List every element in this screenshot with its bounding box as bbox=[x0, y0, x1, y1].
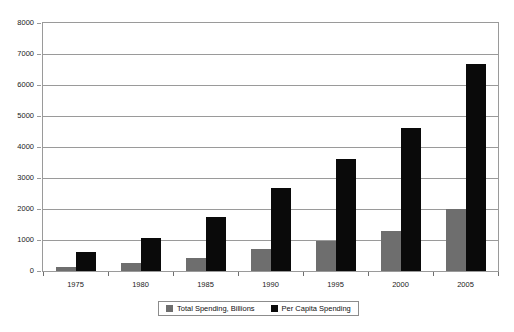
legend-label: Total Spending, Billions bbox=[177, 304, 255, 313]
y-tick-label: 6000 bbox=[17, 81, 34, 89]
bar-group bbox=[433, 23, 498, 271]
y-tick-label: 4000 bbox=[17, 143, 34, 151]
bar-group bbox=[368, 23, 433, 271]
x-tick-mark bbox=[303, 272, 304, 276]
bar-total-spending bbox=[446, 209, 466, 271]
bar-per-capita-spending bbox=[271, 188, 291, 271]
y-tick-label: 2000 bbox=[17, 205, 34, 213]
y-tick-mark bbox=[37, 85, 41, 86]
bar-per-capita-spending bbox=[401, 128, 421, 271]
y-tick-mark bbox=[37, 240, 41, 241]
x-tick-mark bbox=[173, 272, 174, 276]
bars-layer bbox=[43, 23, 498, 271]
y-tick-label: 8000 bbox=[17, 19, 34, 27]
bar-per-capita-spending bbox=[466, 64, 486, 271]
chart-legend: Total Spending, BillionsPer Capita Spend… bbox=[158, 301, 359, 316]
x-tick-label: 1985 bbox=[173, 280, 238, 289]
bar-total-spending bbox=[251, 249, 271, 271]
y-tick-mark bbox=[37, 116, 41, 117]
x-axis: 1975198019851990199520002005 bbox=[42, 272, 499, 296]
x-tick-mark bbox=[368, 272, 369, 276]
x-tick-mark bbox=[498, 272, 499, 276]
bar-group bbox=[173, 23, 238, 271]
bar-per-capita-spending bbox=[206, 217, 226, 271]
bar-chart: 010002000300040005000600070008000 197519… bbox=[0, 0, 514, 332]
legend-swatch-icon bbox=[271, 305, 278, 312]
x-tick-mark bbox=[108, 272, 109, 276]
bar-total-spending bbox=[186, 258, 206, 271]
bar-total-spending bbox=[121, 263, 141, 271]
y-tick-mark bbox=[37, 271, 41, 272]
x-tick-label: 1995 bbox=[303, 280, 368, 289]
legend-swatch-icon bbox=[166, 305, 173, 312]
bar-per-capita-spending bbox=[76, 252, 96, 271]
y-tick-label: 5000 bbox=[17, 112, 34, 120]
bar-group bbox=[108, 23, 173, 271]
y-tick-mark bbox=[37, 23, 41, 24]
x-tick-label: 2000 bbox=[368, 280, 433, 289]
bar-total-spending bbox=[316, 241, 336, 271]
y-tick-label: 0 bbox=[30, 267, 34, 275]
bar-group bbox=[43, 23, 108, 271]
x-tick-mark bbox=[433, 272, 434, 276]
y-tick-mark bbox=[37, 178, 41, 179]
y-tick-label: 7000 bbox=[17, 50, 34, 58]
bar-group bbox=[303, 23, 368, 271]
x-tick-label: 1975 bbox=[43, 280, 108, 289]
y-tick-mark bbox=[37, 147, 41, 148]
x-tick-label: 2005 bbox=[433, 280, 498, 289]
bar-per-capita-spending bbox=[141, 238, 161, 271]
x-tick-mark bbox=[43, 272, 44, 276]
y-tick-mark bbox=[37, 209, 41, 210]
y-axis: 010002000300040005000600070008000 bbox=[0, 0, 42, 332]
y-tick-label: 3000 bbox=[17, 174, 34, 182]
legend-label: Per Capita Spending bbox=[282, 304, 351, 313]
legend-entry: Per Capita Spending bbox=[271, 304, 351, 313]
bar-per-capita-spending bbox=[336, 159, 356, 271]
y-tick-label: 1000 bbox=[17, 236, 34, 244]
x-tick-label: 1980 bbox=[108, 280, 173, 289]
x-tick-label: 1990 bbox=[238, 280, 303, 289]
bar-total-spending bbox=[56, 267, 76, 271]
x-tick-mark bbox=[238, 272, 239, 276]
bar-group bbox=[238, 23, 303, 271]
bar-total-spending bbox=[381, 231, 401, 271]
legend-entry: Total Spending, Billions bbox=[166, 304, 255, 313]
y-tick-mark bbox=[37, 54, 41, 55]
